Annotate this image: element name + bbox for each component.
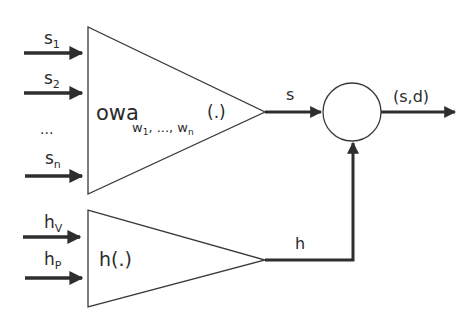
combiner-circle — [323, 83, 381, 141]
label-hv: hV — [44, 212, 63, 235]
owa-weights-subscript: w1, ..., wn — [132, 120, 194, 137]
owa-argument: (.) — [207, 102, 226, 122]
label-h-output: h — [295, 234, 305, 253]
label-owa-output-s: s — [286, 85, 294, 104]
label-ellipsis: ... — [40, 121, 53, 137]
h-output-path — [265, 143, 353, 260]
label-combiner-output: (s,d) — [393, 87, 429, 106]
label-s1: s1 — [44, 28, 60, 51]
label-hp: hP — [44, 249, 62, 272]
h-block-label: h(.) — [99, 248, 132, 270]
label-sn: sn — [45, 148, 61, 171]
owa-block-diagram: s1 s2 ... sn owa w1, ..., wn (.) s (s,d)… — [0, 0, 476, 321]
label-s2: s2 — [44, 68, 60, 91]
